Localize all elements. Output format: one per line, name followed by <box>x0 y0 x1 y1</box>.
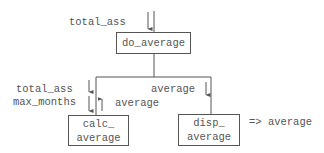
module-do-average: do_average <box>116 32 191 54</box>
module-calc-average-line2: average <box>76 131 120 145</box>
module-do-average-label: do_average <box>122 36 185 50</box>
structure-chart-connectors <box>0 0 324 153</box>
flow-label-disp-output: => average <box>249 116 312 128</box>
module-disp-average-line1: disp_ <box>193 116 225 130</box>
flow-label-calc-out: average <box>115 97 159 109</box>
module-calc-average: calc_ average <box>68 115 129 146</box>
flow-label-calc-in-2: max_months <box>13 96 76 108</box>
module-calc-average-line1: calc_ <box>83 117 115 131</box>
flow-label-root-in: total_ass <box>69 16 126 28</box>
module-disp-average: disp_ average <box>178 114 240 146</box>
module-disp-average-line2: average <box>187 130 231 144</box>
flow-label-calc-in-1: total_ass <box>16 83 73 95</box>
flow-label-disp-in: average <box>151 83 195 95</box>
